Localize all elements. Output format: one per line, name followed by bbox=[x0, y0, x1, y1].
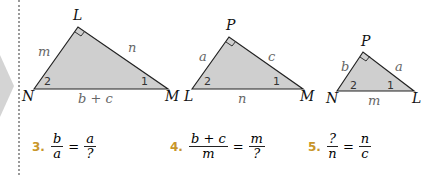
angle-label: 2 bbox=[350, 79, 357, 92]
fraction: nc bbox=[359, 132, 371, 161]
fraction: a? bbox=[84, 132, 96, 161]
angle-label: 1 bbox=[141, 75, 148, 88]
side-label: a bbox=[199, 49, 207, 64]
angle-label: 2 bbox=[204, 75, 211, 88]
exercise-number: 4. bbox=[170, 140, 183, 154]
angle-label: 1 bbox=[387, 79, 394, 92]
vertex-label: N bbox=[326, 90, 338, 106]
side-label: c bbox=[268, 49, 275, 64]
vertex-label: N bbox=[22, 88, 34, 104]
side-label: a bbox=[395, 59, 403, 74]
side-label: n bbox=[128, 40, 136, 55]
vertex-label: M bbox=[300, 88, 314, 104]
vertex-label: M bbox=[165, 88, 179, 104]
angle-label: 1 bbox=[273, 75, 280, 88]
angle-label: 2 bbox=[44, 75, 51, 88]
vertex-label: L bbox=[412, 90, 421, 106]
side-label: m bbox=[368, 93, 380, 108]
side-label: n bbox=[238, 91, 246, 106]
vertex-label: L bbox=[184, 88, 193, 104]
vertex-label: L bbox=[73, 7, 82, 23]
vertex-label: P bbox=[226, 17, 235, 33]
fraction: ?n bbox=[327, 132, 338, 161]
exercise-3: 3. ba = a? bbox=[32, 132, 96, 161]
side-label: b bbox=[341, 59, 349, 74]
vertex-label: P bbox=[361, 33, 370, 49]
fraction: ba bbox=[51, 132, 63, 161]
fraction: m? bbox=[249, 132, 265, 161]
exercise-4: 4. b + cm = m? bbox=[170, 132, 265, 161]
side-label: b + c bbox=[78, 91, 113, 106]
fraction: b + cm bbox=[189, 132, 228, 161]
side-label: m bbox=[38, 44, 50, 59]
exercise-5: 5. ?n = nc bbox=[308, 132, 371, 161]
exercise-number: 5. bbox=[308, 140, 321, 154]
exercise-number: 3. bbox=[32, 140, 45, 154]
